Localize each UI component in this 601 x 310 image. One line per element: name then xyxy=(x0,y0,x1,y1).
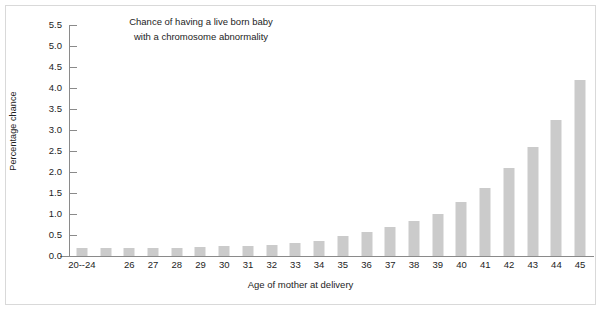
y-axis-tick-label: 2.5 xyxy=(30,146,62,156)
bar xyxy=(290,243,301,256)
x-axis-tick-label: 45 xyxy=(575,260,586,270)
x-axis-tick-label: 35 xyxy=(338,260,349,270)
x-axis-title: Age of mother at delivery xyxy=(0,279,601,290)
y-axis-tick-label: 5.5 xyxy=(30,20,62,30)
x-axis-tick-label: 38 xyxy=(409,260,420,270)
bar xyxy=(219,246,230,256)
bar xyxy=(148,248,159,256)
x-axis-tick-label: 31 xyxy=(243,260,254,270)
x-axis-tick-label: 26 xyxy=(124,260,135,270)
bar xyxy=(551,120,562,257)
bar-slot xyxy=(70,25,94,256)
chart-figure: Percentage chance 0.00.51.01.52.02.53.03… xyxy=(0,0,601,310)
bar-slot xyxy=(545,25,569,256)
y-axis-tick-label: 3.5 xyxy=(30,104,62,114)
y-axis-tick-label: 0.5 xyxy=(30,230,62,240)
bar xyxy=(171,248,182,256)
bar-slot xyxy=(117,25,141,256)
bar-series xyxy=(70,25,592,256)
x-axis-tick-label: 27 xyxy=(148,260,159,270)
bar-slot xyxy=(94,25,118,256)
bar xyxy=(242,246,253,256)
bar-slot xyxy=(473,25,497,256)
y-axis-tick-label: 4.5 xyxy=(30,62,62,72)
x-axis-tick-label: 33 xyxy=(290,260,301,270)
bar-slot xyxy=(568,25,592,256)
bar-slot xyxy=(497,25,521,256)
y-axis-tick-label: 1.0 xyxy=(30,209,62,219)
bar xyxy=(361,232,372,256)
bar-slot xyxy=(260,25,284,256)
bar-slot xyxy=(521,25,545,256)
x-axis-tick-label: 28 xyxy=(171,260,182,270)
bar xyxy=(480,188,491,256)
y-axis-tick-label: 3.0 xyxy=(30,125,62,135)
bar-slot xyxy=(189,25,213,256)
bar xyxy=(527,147,538,256)
bar-slot xyxy=(141,25,165,256)
bar xyxy=(76,248,87,256)
bar-slot xyxy=(355,25,379,256)
y-axis-tick-label: 5.0 xyxy=(30,41,62,51)
bar-slot xyxy=(378,25,402,256)
x-axis-tick-label: 34 xyxy=(314,260,325,270)
bar-slot xyxy=(236,25,260,256)
bar-slot xyxy=(450,25,474,256)
x-axis-tick-label: 42 xyxy=(504,260,515,270)
bar xyxy=(575,80,586,256)
bar-slot xyxy=(165,25,189,256)
bar-slot xyxy=(331,25,355,256)
x-axis-tick-label: 36 xyxy=(361,260,372,270)
bar xyxy=(337,236,348,256)
bar-slot xyxy=(402,25,426,256)
y-axis-tick-label: 4.0 xyxy=(30,83,62,93)
x-axis-tick-label: 43 xyxy=(527,260,538,270)
y-axis-tick-label: 2.0 xyxy=(30,167,62,177)
x-axis-tick-label: 41 xyxy=(480,260,491,270)
bar xyxy=(503,168,514,256)
y-axis-tick-label: 1.5 xyxy=(30,188,62,198)
x-axis-tick-label: 44 xyxy=(551,260,562,270)
bar xyxy=(195,247,206,256)
y-axis-tick-label: 0.0 xyxy=(30,251,62,261)
bar-slot xyxy=(284,25,308,256)
bar xyxy=(456,202,467,256)
bar xyxy=(266,245,277,256)
y-axis-tick xyxy=(70,256,77,257)
bar-slot xyxy=(426,25,450,256)
bar xyxy=(314,241,325,256)
x-axis-tick-label: 40 xyxy=(456,260,467,270)
x-axis-tick-label: 29 xyxy=(195,260,206,270)
bar xyxy=(124,248,135,256)
x-axis-tick-label: 39 xyxy=(432,260,443,270)
bar-slot xyxy=(307,25,331,256)
bar xyxy=(385,227,396,256)
bar xyxy=(432,214,443,256)
bar xyxy=(100,248,111,256)
x-axis-tick-label: 30 xyxy=(219,260,230,270)
bar-slot xyxy=(212,25,236,256)
x-axis-tick-label: 32 xyxy=(266,260,277,270)
bar xyxy=(409,221,420,256)
x-axis-tick-label: 20--24 xyxy=(68,260,95,270)
x-axis-tick-label: 37 xyxy=(385,260,396,270)
